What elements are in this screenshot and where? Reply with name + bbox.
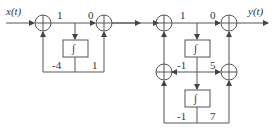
integrator-symbol: ∫ [194,43,197,54]
input-label: x(t) [6,6,21,17]
integrator-symbol: ∫ [72,43,75,54]
integrator-left [63,40,88,57]
gain-label: 1 [180,10,186,21]
integrator-right-1 [185,40,210,57]
diagram-lines [0,0,275,134]
sum-junction-6 [221,64,237,80]
gain-label: 0 [210,10,216,21]
gain-label: 1 [57,10,63,21]
sum-junction-1 [35,15,51,31]
sum-junction-2 [96,15,112,31]
output-label: y(t) [248,6,263,17]
gain-label: 7 [210,111,216,122]
integrator-symbol: ∫ [194,93,197,104]
gain-label: 0 [88,10,94,21]
sum-junction-4 [221,15,237,31]
gain-label: -4 [52,60,61,71]
gain-label: 5 [210,60,216,71]
sum-junction-3 [156,15,172,31]
sum-junction-5 [156,64,172,80]
integrator-right-2 [185,90,210,107]
block-diagram: x(t) y(t) 1 0 ∫ -4 1 1 0 ∫ -1 5 ∫ -1 7 [0,0,275,134]
gain-label: -1 [177,60,186,71]
gain-label: -1 [177,111,186,122]
gain-label: 1 [92,60,98,71]
